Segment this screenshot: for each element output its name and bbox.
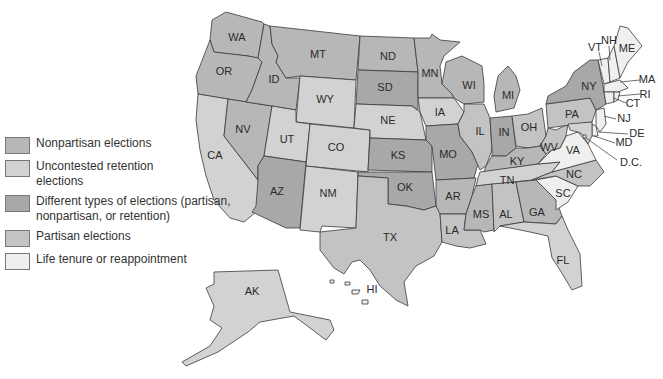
label-mt: MT: [310, 48, 326, 60]
label-tn: TN: [500, 174, 515, 186]
label-fl: FL: [557, 254, 570, 266]
label-ak: AK: [245, 285, 260, 297]
label-nj: NJ: [617, 112, 630, 124]
label-ut: UT: [280, 133, 295, 145]
legend-item-life: Life tenure or reappointment: [5, 252, 245, 270]
legend-label: Nonpartisan elections: [36, 136, 151, 151]
legend-label: Partisan elections: [36, 229, 131, 244]
label-wy: WY: [316, 93, 334, 105]
legend-item-nonpartisan: Nonpartisan elections: [5, 136, 245, 154]
label-hi: HI: [367, 283, 378, 295]
label-ct: CT: [626, 97, 641, 109]
label-ky: KY: [510, 155, 525, 167]
legend-label: Different types of elections (partisan, …: [36, 194, 245, 224]
label-mi: MI: [502, 89, 514, 101]
legend-swatch: [5, 230, 30, 247]
label-oh: OH: [521, 121, 538, 133]
label-pa: PA: [565, 108, 580, 120]
legend-label: Uncontested retention elections: [36, 159, 166, 189]
label-me: ME: [619, 42, 636, 54]
label-va: VA: [566, 144, 581, 156]
label-il: IL: [475, 125, 484, 137]
label-in: IN: [499, 126, 510, 138]
label-ma: MA: [639, 73, 656, 85]
label-la: LA: [445, 224, 459, 236]
legend-swatch: [5, 253, 30, 270]
state-nj[interactable]: [596, 108, 606, 132]
label-ny: NY: [581, 80, 597, 92]
label-nh: NH: [601, 34, 617, 46]
label-ms: MS: [473, 208, 490, 220]
label-nc: NC: [566, 168, 582, 180]
label-md: MD: [615, 136, 632, 148]
label-ar: AR: [445, 190, 460, 202]
label-ri: RI: [640, 88, 651, 100]
label-tx: TX: [383, 231, 398, 243]
label-ia: IA: [435, 106, 446, 118]
label-az: AZ: [270, 185, 284, 197]
label-ne: NE: [380, 114, 395, 126]
label-sd: SD: [377, 81, 392, 93]
label-wa: WA: [228, 31, 246, 43]
state-hi[interactable]: [330, 280, 368, 304]
label-nv: NV: [235, 123, 251, 135]
state-nm[interactable]: [300, 166, 358, 232]
legend-swatch: [5, 137, 30, 154]
label-mn: MN: [421, 67, 438, 79]
label-mo: MO: [439, 148, 457, 160]
legend-item-different: Different types of elections (partisan, …: [5, 194, 245, 224]
legend-swatch: [5, 195, 30, 212]
state-fl[interactable]: [500, 216, 582, 290]
legend: Nonpartisan elections Uncontested retent…: [5, 136, 245, 275]
label-wv: WV: [540, 141, 558, 153]
label-nm: NM: [319, 187, 336, 199]
label-sc: SC: [555, 187, 570, 199]
label-ga: GA: [529, 206, 546, 218]
label-ks: KS: [391, 149, 406, 161]
label-or: OR: [216, 65, 233, 77]
label-ok: OK: [397, 181, 414, 193]
label-co: CO: [328, 141, 345, 153]
legend-item-retention: Uncontested retention elections: [5, 159, 245, 189]
state-dc[interactable]: [583, 135, 586, 138]
label-dc: D.C.: [620, 156, 642, 168]
legend-label: Life tenure or reappointment: [36, 252, 187, 267]
legend-item-partisan: Partisan elections: [5, 229, 245, 247]
state-ct[interactable]: [604, 92, 614, 104]
label-id: ID: [269, 73, 280, 85]
label-wi: WI: [462, 79, 475, 91]
label-al: AL: [499, 208, 512, 220]
label-nd: ND: [380, 50, 396, 62]
legend-swatch: [5, 160, 30, 177]
